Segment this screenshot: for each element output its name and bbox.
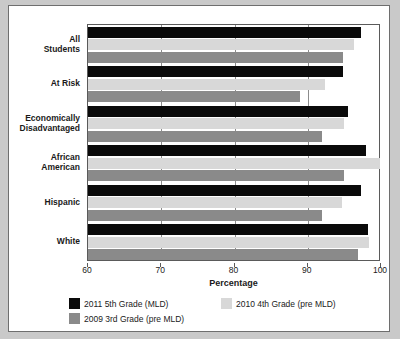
x-tick-label: 60 xyxy=(82,265,91,275)
bar-group xyxy=(88,27,379,63)
x-tick-label: 100 xyxy=(373,265,387,275)
category-label: Economically Disadvantaged xyxy=(20,113,80,133)
bar xyxy=(88,197,342,208)
bar xyxy=(88,52,343,63)
legend-label: 2010 4th Grade (pre MLD) xyxy=(236,299,336,309)
bar xyxy=(88,170,344,181)
x-axis-title: Percentage xyxy=(87,278,380,288)
bar-group xyxy=(88,185,379,221)
bar-group xyxy=(88,66,379,102)
x-tick-label: 70 xyxy=(156,265,165,275)
legend-swatch xyxy=(221,298,232,309)
bar xyxy=(88,106,348,117)
plot-area xyxy=(87,24,380,261)
bar xyxy=(88,27,361,38)
legend-label: 2009 3rd Grade (pre MLD) xyxy=(84,314,184,324)
bar xyxy=(88,185,361,196)
category-label: White xyxy=(57,236,80,246)
bar-series-container xyxy=(88,25,379,260)
legend-swatch xyxy=(69,313,80,324)
bar xyxy=(88,91,300,102)
bar xyxy=(88,79,325,90)
bar xyxy=(88,118,344,129)
x-tick-label: 90 xyxy=(302,265,311,275)
bar-group xyxy=(88,224,379,260)
category-axis-labels: All StudentsAt RiskEconomically Disadvan… xyxy=(9,24,83,261)
legend-label: 2011 5th Grade (MLD) xyxy=(84,299,168,309)
bar-group xyxy=(88,145,379,181)
bar xyxy=(88,237,369,248)
bar xyxy=(88,131,322,142)
bar-group xyxy=(88,106,379,142)
bar xyxy=(88,249,358,260)
category-label: At Risk xyxy=(51,78,80,88)
bar xyxy=(88,39,354,50)
category-label: All Students xyxy=(44,34,80,54)
chart-figure: All StudentsAt RiskEconomically Disadvan… xyxy=(8,5,390,332)
x-tick-label: 80 xyxy=(229,265,238,275)
legend-item[interactable]: 2010 4th Grade (pre MLD) xyxy=(221,298,336,309)
category-label: Hispanic xyxy=(45,197,80,207)
category-label: African American xyxy=(41,152,80,172)
bar xyxy=(88,224,368,235)
bar xyxy=(88,145,366,156)
legend-item[interactable]: 2009 3rd Grade (pre MLD) xyxy=(69,313,184,324)
legend-swatch xyxy=(69,298,80,309)
bar xyxy=(88,210,322,221)
chart-legend: 2011 5th Grade (MLD)2010 4th Grade (pre … xyxy=(69,298,369,326)
legend-item[interactable]: 2011 5th Grade (MLD) xyxy=(69,298,168,309)
bar xyxy=(88,158,380,169)
bar xyxy=(88,66,343,77)
